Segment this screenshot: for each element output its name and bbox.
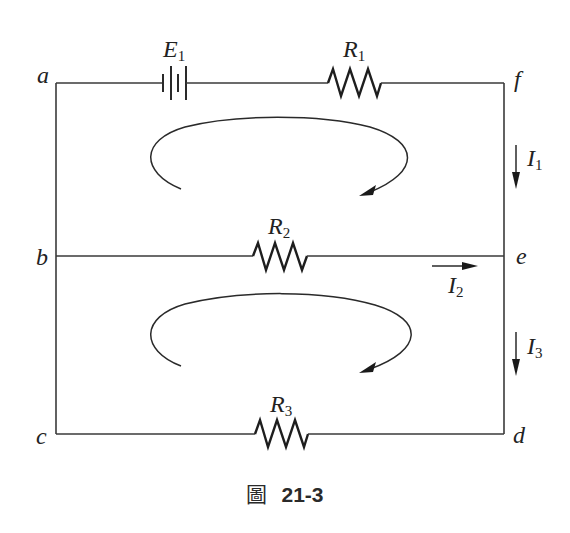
bottom-branch bbox=[56, 420, 504, 447]
label-i2: I2 bbox=[447, 272, 464, 300]
battery-e1 bbox=[163, 66, 186, 100]
upper-loop-arrow-icon bbox=[151, 117, 408, 196]
node-label-a: a bbox=[37, 62, 49, 88]
circuit-diagram: a f b e c d E1 R1 R2 R3 I1 I2 I3 bbox=[0, 0, 570, 533]
resistor-r3 bbox=[255, 420, 308, 447]
figure-number: 21-3 bbox=[281, 483, 323, 506]
node-label-b: b bbox=[36, 244, 48, 270]
current-i3-arrow-icon bbox=[512, 332, 520, 376]
lower-loop-arrow-icon bbox=[151, 294, 411, 373]
label-r3: R3 bbox=[269, 391, 292, 419]
node-label-e: e bbox=[516, 243, 527, 269]
current-i1-arrow-icon bbox=[512, 145, 520, 189]
figure-prefix: 圖 bbox=[246, 478, 267, 508]
top-branch bbox=[56, 66, 504, 100]
label-r2: R2 bbox=[267, 213, 290, 241]
node-label-d: d bbox=[513, 422, 526, 448]
label-e1: E1 bbox=[162, 36, 185, 64]
label-r1: R1 bbox=[342, 36, 365, 64]
current-i2-arrow-icon bbox=[432, 262, 478, 270]
figure-caption: 圖21-3 bbox=[0, 478, 570, 508]
node-label-f: f bbox=[514, 66, 524, 92]
label-i1: I1 bbox=[526, 145, 543, 173]
resistor-r2 bbox=[253, 243, 307, 270]
node-label-c: c bbox=[36, 423, 47, 449]
label-i3: I3 bbox=[526, 333, 543, 361]
resistor-r1 bbox=[328, 69, 381, 96]
